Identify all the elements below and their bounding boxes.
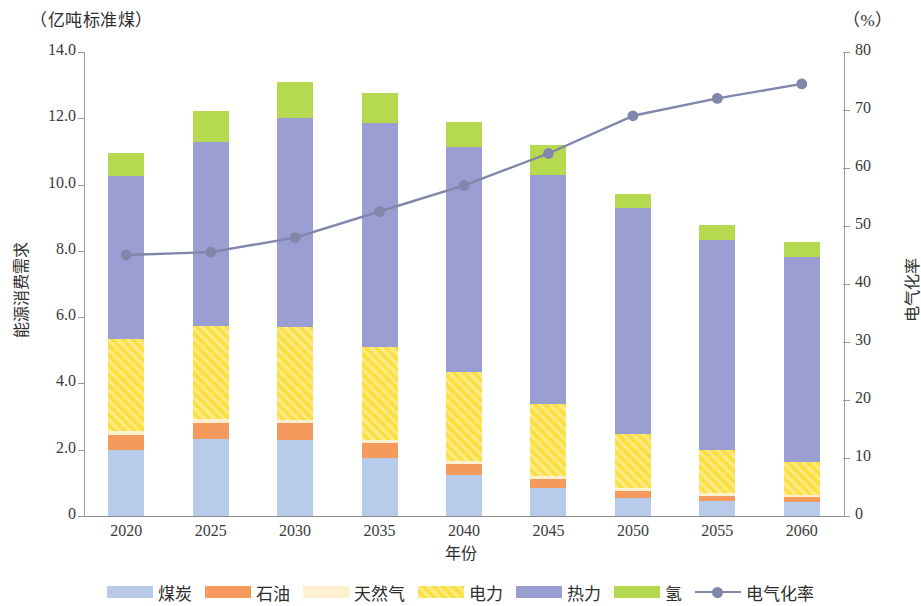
bar-segment-hydrogen[interactable] <box>784 242 820 257</box>
bar-segment-oil[interactable] <box>446 464 482 475</box>
bar-segment-gas[interactable] <box>446 461 482 464</box>
bar-segment-coal[interactable] <box>530 488 566 516</box>
bar-segment-hydrogen[interactable] <box>277 82 313 118</box>
left-axis-tick-label: 14.0 <box>16 41 76 59</box>
bar-group[interactable] <box>446 52 482 516</box>
bar-group[interactable] <box>277 52 313 516</box>
bar-group[interactable] <box>699 52 735 516</box>
right-axis-tick-mark <box>843 516 850 517</box>
legend-swatch-icon <box>107 586 153 598</box>
legend-item[interactable]: 天然气 <box>303 580 405 605</box>
right-axis-tick-mark <box>843 168 850 169</box>
bar-segment-hydrogen[interactable] <box>699 225 735 240</box>
bar-group[interactable] <box>615 52 651 516</box>
legend-item[interactable]: 煤炭 <box>107 580 192 605</box>
legend-item[interactable]: 石油 <box>205 580 290 605</box>
bar-segment-heat[interactable] <box>784 257 820 462</box>
bar-segment-oil[interactable] <box>530 479 566 488</box>
bar-segment-gas[interactable] <box>699 493 735 495</box>
bar-segment-coal[interactable] <box>193 439 229 516</box>
bar-segment-power[interactable] <box>699 450 735 493</box>
bar-segment-heat[interactable] <box>699 240 735 450</box>
x-axis-tick-label: 2050 <box>593 522 673 540</box>
left-axis-tick-label: 6.0 <box>16 306 76 324</box>
bar-segment-power[interactable] <box>362 347 398 440</box>
bar-segment-heat[interactable] <box>530 175 566 404</box>
legend-swatch-icon <box>516 586 562 598</box>
bar-segment-heat[interactable] <box>108 176 144 338</box>
legend-item[interactable]: 电气化率 <box>695 580 814 605</box>
bar-segment-oil[interactable] <box>193 423 229 440</box>
bar-segment-heat[interactable] <box>446 147 482 372</box>
bar-segment-coal[interactable] <box>108 450 144 516</box>
x-axis-line <box>84 516 845 517</box>
right-axis-tick-label: 20 <box>855 389 915 407</box>
bar-segment-gas[interactable] <box>784 495 820 497</box>
bar-segment-heat[interactable] <box>615 208 651 433</box>
x-axis-tick-label: 2040 <box>424 522 504 540</box>
bar-group[interactable] <box>108 52 144 516</box>
bar-segment-oil[interactable] <box>108 435 144 450</box>
bar-segment-hydrogen[interactable] <box>193 111 229 142</box>
left-axis-tick-label: 8.0 <box>16 240 76 258</box>
right-axis-tick-label: 80 <box>855 41 915 59</box>
bar-segment-coal[interactable] <box>446 475 482 516</box>
bar-segment-power[interactable] <box>108 339 144 432</box>
legend-label: 电气化率 <box>746 580 814 605</box>
bar-segment-coal[interactable] <box>362 458 398 516</box>
right-axis-tick-mark <box>843 110 850 111</box>
bar-segment-oil[interactable] <box>362 443 398 458</box>
bar-segment-gas[interactable] <box>530 476 566 479</box>
bar-segment-hydrogen[interactable] <box>530 145 566 175</box>
x-axis-tick-label: 2060 <box>762 522 842 540</box>
bar-segment-gas[interactable] <box>277 420 313 423</box>
bar-segment-oil[interactable] <box>699 496 735 501</box>
bar-group[interactable] <box>530 52 566 516</box>
bar-segment-hydrogen[interactable] <box>362 93 398 123</box>
right-axis-unit-label: （%） <box>843 6 893 31</box>
bar-segment-power[interactable] <box>530 404 566 476</box>
left-axis-unit-label: （亿吨标准煤） <box>30 6 153 31</box>
right-axis-tick-mark <box>843 400 850 401</box>
right-axis-tick-label: 30 <box>855 331 915 349</box>
bar-segment-gas[interactable] <box>108 431 144 434</box>
bar-group[interactable] <box>362 52 398 516</box>
right-axis-tick-mark <box>843 342 850 343</box>
right-axis-tick-mark <box>843 52 850 53</box>
bar-segment-hydrogen[interactable] <box>446 122 482 147</box>
bar-segment-hydrogen[interactable] <box>615 194 651 209</box>
bar-segment-power[interactable] <box>277 327 313 420</box>
legend-item[interactable]: 热力 <box>516 580 601 605</box>
bar-segment-heat[interactable] <box>362 123 398 347</box>
left-axis-tick-label: 4.0 <box>16 372 76 390</box>
bar-segment-coal[interactable] <box>699 501 735 516</box>
bar-segment-coal[interactable] <box>277 440 313 516</box>
bar-segment-power[interactable] <box>784 462 820 495</box>
bar-segment-power[interactable] <box>446 372 482 460</box>
bar-segment-heat[interactable] <box>193 142 229 326</box>
bar-segment-coal[interactable] <box>784 502 820 516</box>
bar-group[interactable] <box>193 52 229 516</box>
right-axis-tick-label: 40 <box>855 273 915 291</box>
bar-segment-power[interactable] <box>615 434 651 489</box>
bar-segment-oil[interactable] <box>615 491 651 498</box>
x-axis-tick-label: 2055 <box>677 522 757 540</box>
bar-segment-heat[interactable] <box>277 118 313 327</box>
legend-swatch-icon <box>303 586 349 598</box>
x-axis-tick-label: 2035 <box>340 522 420 540</box>
bar-segment-oil[interactable] <box>277 423 313 440</box>
legend-label: 热力 <box>567 580 601 605</box>
bar-group[interactable] <box>784 52 820 516</box>
legend-item[interactable]: 电力 <box>418 580 503 605</box>
bar-segment-oil[interactable] <box>784 497 820 502</box>
legend-label: 天然气 <box>354 580 405 605</box>
legend-label: 氢 <box>665 580 682 605</box>
bar-segment-power[interactable] <box>193 326 229 419</box>
legend-item[interactable]: 氢 <box>614 580 682 605</box>
bar-segment-gas[interactable] <box>193 419 229 422</box>
bar-segment-hydrogen[interactable] <box>108 153 144 176</box>
bar-segment-coal[interactable] <box>615 498 651 516</box>
bar-segment-gas[interactable] <box>615 488 651 491</box>
legend-swatch-icon <box>205 586 251 598</box>
bar-segment-gas[interactable] <box>362 440 398 443</box>
